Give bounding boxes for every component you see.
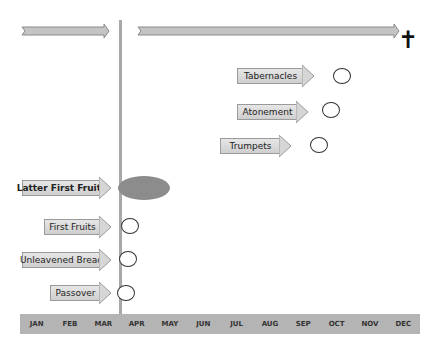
month-aug: AUG (253, 320, 286, 328)
feast-marker-tabernacles (333, 68, 351, 84)
feast-marker-first-fruits (121, 218, 139, 234)
feast-label: Atonement (237, 104, 297, 120)
month-mar: MAR (87, 320, 120, 328)
arrow-head-icon (279, 135, 292, 157)
month-axis: JAN FEB MAR APR MAY JUN JUL AUG SEP OCT … (20, 314, 420, 334)
feast-trumpets: Trumpets (220, 135, 292, 157)
feast-atonement: Atonement (237, 101, 309, 123)
divider-line (119, 20, 122, 316)
arrow-head-icon (99, 177, 112, 199)
month-apr: APR (120, 320, 153, 328)
arrow-head-icon (99, 249, 112, 271)
feast-label: Passover (50, 285, 100, 301)
feast-first-fruits: First Fruits (44, 216, 112, 238)
feast-marker-passover (117, 285, 135, 301)
feast-unleavened-bread: Unleavened Bread (22, 249, 112, 271)
month-jun: JUN (187, 320, 220, 328)
feast-marker-atonement (322, 102, 340, 118)
feast-label: Trumpets (220, 138, 280, 154)
feast-marker-trumpets (310, 137, 328, 153)
arrow-head-icon (99, 216, 112, 238)
month-may: MAY (153, 320, 186, 328)
feast-label: Latter First Fruits (22, 180, 100, 196)
feast-latter-first-fruits: Latter First Fruits (22, 177, 112, 199)
month-jul: JUL (220, 320, 253, 328)
month-oct: OCT (320, 320, 353, 328)
month-jan: JAN (20, 320, 53, 328)
feast-marker-unleavened-bread (119, 251, 137, 267)
month-feb: FEB (53, 320, 86, 328)
arrow-head-icon (99, 282, 112, 304)
feast-tabernacles: Tabernacles (237, 65, 315, 87)
month-dec: DEC (387, 320, 420, 328)
feast-label: First Fruits (44, 219, 100, 235)
feast-marker-latter-first-fruits (118, 176, 170, 200)
timeline-arrow-right (136, 24, 400, 38)
arrow-head-icon (296, 101, 309, 123)
arrow-head-icon (302, 65, 315, 87)
cross-icon: ✝ (398, 28, 418, 52)
month-sep: SEP (287, 320, 320, 328)
timeline-arrow-left (20, 24, 110, 38)
month-nov: NOV (353, 320, 386, 328)
feast-passover: Passover (50, 282, 112, 304)
feast-label: Unleavened Bread (22, 252, 100, 268)
feast-label: Tabernacles (237, 68, 303, 84)
